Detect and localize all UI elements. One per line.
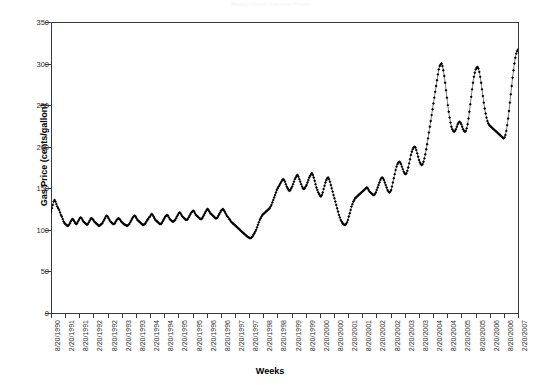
x-axis-tick-label: 2/20/2004 — [436, 320, 443, 351]
x-axis-tick — [306, 313, 307, 318]
x-axis-tick — [108, 313, 109, 318]
x-axis-tick — [65, 313, 66, 318]
x-axis-tick — [334, 313, 335, 318]
x-axis-tick — [136, 313, 137, 318]
x-axis-tick — [193, 313, 194, 318]
y-axis-tick — [45, 188, 51, 189]
x-axis-tick — [51, 313, 52, 318]
x-axis-tick-label: 2/20/2005 — [464, 320, 471, 351]
x-axis-tick-label: 2/20/2006 — [493, 320, 500, 351]
x-axis-tick-label: 8/20/1998 — [280, 320, 287, 351]
x-axis-tick-label: 8/20/1997 — [252, 320, 259, 351]
x-axis-tick-label: 2/20/1991 — [68, 320, 75, 351]
x-axis-tick — [490, 313, 491, 318]
y-axis-tick — [45, 230, 51, 231]
x-axis-tick — [221, 313, 222, 318]
x-axis-tick-label: 8/20/2006 — [507, 320, 514, 351]
x-axis-tick-label: 2/20/1993 — [125, 320, 132, 351]
y-axis-tick — [45, 147, 51, 148]
x-axis-title: Weeks — [0, 366, 540, 376]
x-axis-tick-label: 2/20/2001 — [351, 320, 358, 351]
plot-border-right — [518, 22, 519, 314]
y-axis-tick — [45, 105, 51, 106]
x-axis-tick-label: 8/20/1995 — [196, 320, 203, 351]
y-axis-tick — [45, 22, 51, 23]
x-axis-tick-label: 2/20/1998 — [266, 320, 273, 351]
x-axis-tick-label: 8/20/2005 — [479, 320, 486, 351]
x-axis-tick — [79, 313, 80, 318]
plot-area — [51, 22, 518, 313]
x-axis-tick — [277, 313, 278, 318]
x-axis-tick-label: 8/20/2000 — [337, 320, 344, 351]
x-axis-tick — [320, 313, 321, 318]
x-axis-tick — [207, 313, 208, 318]
x-axis-tick-label: 8/20/1991 — [82, 320, 89, 351]
x-axis-tick-label: 2/20/2003 — [408, 320, 415, 351]
x-axis-tick — [122, 313, 123, 318]
x-axis-tick-label: 8/20/2002 — [394, 320, 401, 351]
y-axis-tick — [45, 64, 51, 65]
x-axis-tick — [504, 313, 505, 318]
x-axis-tick-label: 8/20/2003 — [422, 320, 429, 351]
x-axis-tick — [419, 313, 420, 318]
chart-figure: Weekly Retail Gasoline Prices 0501001502… — [0, 0, 540, 385]
x-axis-tick-label: 2/20/1996 — [210, 320, 217, 351]
y-axis-tick-label: 50 — [5, 267, 49, 276]
x-axis-tick — [405, 313, 406, 318]
x-axis-tick-label: 2/20/2007 — [521, 320, 528, 351]
x-axis-tick — [476, 313, 477, 318]
x-axis-tick — [362, 313, 363, 318]
x-axis-tick — [518, 313, 519, 318]
x-axis-tick — [376, 313, 377, 318]
x-axis-tick-label: 2/20/1995 — [181, 320, 188, 351]
x-axis-tick — [447, 313, 448, 318]
x-axis-tick — [263, 313, 264, 318]
x-axis-tick-label: 2/20/1992 — [96, 320, 103, 351]
x-axis-tick-label: 8/20/1996 — [224, 320, 231, 351]
y-axis-title: Gas Price (cents/gallon) — [39, 75, 49, 235]
x-axis-tick — [178, 313, 179, 318]
x-axis-tick-label: 8/20/2001 — [365, 320, 372, 351]
y-axis-tick-label: 350 — [5, 18, 49, 27]
x-axis-tick-label: 8/20/1992 — [111, 320, 118, 351]
x-axis-tick-label: 8/20/1999 — [309, 320, 316, 351]
x-axis-tick-label: 2/20/1997 — [238, 320, 245, 351]
y-axis-tick-label: 300 — [5, 60, 49, 69]
x-axis-tick — [461, 313, 462, 318]
x-axis-tick — [93, 313, 94, 318]
x-axis-tick-label: 2/20/1999 — [295, 320, 302, 351]
x-axis-tick — [348, 313, 349, 318]
x-axis-tick — [292, 313, 293, 318]
x-axis-tick — [391, 313, 392, 318]
x-axis-tick — [150, 313, 151, 318]
x-axis-tick — [249, 313, 250, 318]
y-axis-tick — [45, 271, 51, 272]
x-axis-tick-label: 8/20/2004 — [450, 320, 457, 351]
gas-price-series — [51, 22, 518, 313]
x-axis-tick — [433, 313, 434, 318]
faint-header-text: Weekly Retail Gasoline Prices — [230, 1, 430, 10]
x-axis-tick-label: 2/20/1994 — [153, 320, 160, 351]
x-axis-tick — [164, 313, 165, 318]
x-axis-tick-label: 2/20/2000 — [323, 320, 330, 351]
x-axis-tick-label: 8/20/1990 — [54, 320, 61, 351]
x-axis-tick-label: 8/20/1994 — [167, 320, 174, 351]
x-axis-tick — [235, 313, 236, 318]
x-axis-tick-label: 2/20/2002 — [379, 320, 386, 351]
y-axis-tick-label: 0 — [5, 309, 49, 318]
x-axis-tick-label: 8/20/1993 — [139, 320, 146, 351]
